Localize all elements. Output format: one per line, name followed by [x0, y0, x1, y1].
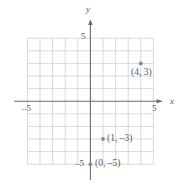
point-label-0-neg5: (0, –5) — [95, 159, 120, 169]
coordinate-plane-figure: x y –5 5 5 –5 (4, 3) (1, –3) (0, –5) — [0, 0, 188, 190]
plot-canvas — [0, 0, 188, 190]
axes — [14, 21, 162, 180]
x-axis-arrow-icon — [157, 99, 162, 104]
y-tick-label-5: 5 — [81, 32, 86, 41]
y-axis-label: y — [86, 5, 90, 14]
point-label-4-3: (4, 3) — [131, 68, 152, 78]
x-tick-label-5: 5 — [152, 104, 157, 113]
x-tick-label-neg5: –5 — [22, 104, 31, 113]
y-axis-arrow-icon — [88, 20, 93, 26]
data-point-1-neg3 — [101, 137, 105, 141]
y-tick-label-neg5: –5 — [75, 159, 84, 168]
data-point-0-neg5 — [89, 162, 93, 166]
data-point-4-3 — [139, 62, 143, 66]
point-label-1-neg3: (1, –3) — [107, 134, 132, 144]
x-axis-label: x — [170, 97, 174, 106]
